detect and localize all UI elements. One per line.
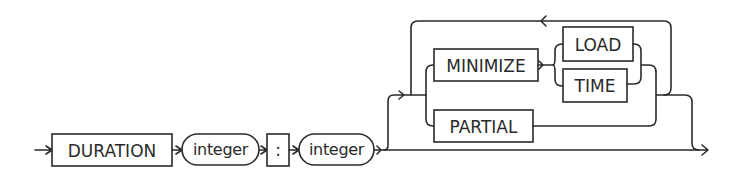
optional-branch-up (384, 91, 426, 150)
terminal-time: TIME (563, 69, 627, 102)
entry-arrow (35, 146, 52, 154)
terminal-partial-label: PARTIAL (450, 117, 518, 137)
inner-split (553, 44, 563, 86)
terminal-duration: DURATION (52, 134, 172, 166)
connector-arrow (259, 146, 267, 154)
connector-arrow (289, 146, 299, 154)
nonterminal-integer-1-label: integer (193, 140, 249, 159)
terminal-partial: PARTIAL (434, 110, 533, 142)
terminal-time-label: TIME (574, 76, 616, 96)
syntax-diagram: DURATION integer : integer MINIMIZE LOAD (0, 0, 736, 179)
terminal-minimize: MINIMIZE (434, 49, 538, 81)
terminal-load: LOAD (563, 27, 633, 61)
nonterminal-integer-2-label: integer (309, 140, 365, 159)
branch-split (426, 65, 434, 126)
terminal-load-label: LOAD (575, 35, 622, 55)
connector-arrow (172, 146, 182, 154)
connector-arrow (538, 61, 553, 69)
terminal-colon: : (267, 134, 289, 166)
nonterminal-integer-1: integer (182, 134, 259, 165)
nonterminal-integer-2: integer (299, 134, 374, 165)
main-line (374, 145, 708, 155)
terminal-colon-label: : (275, 140, 281, 160)
terminal-minimize-label: MINIMIZE (446, 56, 525, 76)
terminal-duration-label: DURATION (68, 141, 156, 161)
